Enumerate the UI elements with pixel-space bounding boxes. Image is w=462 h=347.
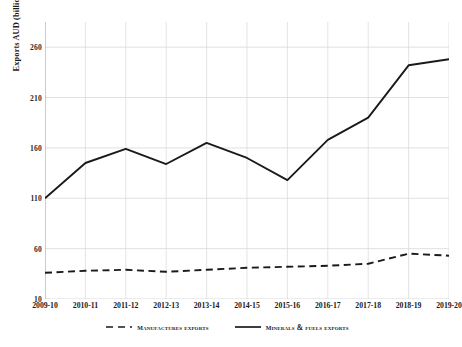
legend-label-manufactures: Manufactures exports: [137, 322, 208, 332]
x-tick-label: 2011-12: [113, 301, 138, 310]
y-tick-label: 210: [20, 93, 42, 102]
plot-svg: [45, 22, 449, 299]
x-tick-label: 2019-20: [436, 301, 462, 310]
x-tick-label: 2009-10: [32, 301, 58, 310]
legend-item-manufactures: Manufactures exports: [106, 322, 208, 332]
y-tick-label: 160: [20, 143, 42, 152]
x-tick-label: 2012-13: [153, 301, 179, 310]
y-tick-label: 260: [20, 43, 42, 52]
x-tick-label: 2017-18: [355, 301, 381, 310]
chart-legend: Manufactures exports Minerals & fuels ex…: [0, 322, 455, 332]
legend-item-minerals-fuels: Minerals & fuels exports: [235, 322, 349, 332]
x-tick-label: 2013-14: [194, 301, 220, 310]
y-axis-tick-labels: 1060110160210260: [18, 0, 42, 347]
legend-dashed-line-icon: [106, 322, 132, 332]
legend-label-minerals-fuels: Minerals & fuels exports: [266, 322, 349, 332]
y-tick-label: 110: [20, 194, 42, 203]
y-tick-label: 60: [20, 244, 42, 253]
x-tick-label: 2018-19: [396, 301, 422, 310]
x-tick-label: 2015-16: [275, 301, 301, 310]
x-axis-tick-labels: 2009-102010-112011-122012-132013-142014-…: [45, 301, 449, 317]
plot-area: [45, 22, 449, 299]
x-tick-label: 2016-17: [315, 301, 341, 310]
legend-solid-line-icon: [235, 322, 261, 332]
grid-lines: [45, 22, 449, 299]
x-tick-label: 2014-15: [234, 301, 260, 310]
x-tick-label: 2010-11: [73, 301, 98, 310]
